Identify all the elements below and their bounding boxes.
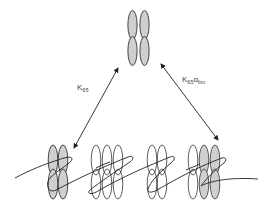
bottom-group-2	[91, 145, 123, 199]
subunit-ellipse	[140, 37, 149, 66]
top-molecule	[128, 11, 149, 66]
bottom-group-3	[147, 145, 167, 199]
label-right-tail-sub: lim	[198, 79, 205, 85]
subunit-ellipse	[91, 169, 101, 199]
diagram-canvas	[0, 0, 277, 210]
subunit-ellipse	[48, 169, 58, 199]
equilibrium-arrow-left	[74, 68, 118, 148]
bottom-group-4	[188, 145, 220, 199]
subunit-ellipse	[147, 169, 157, 199]
subunit-ellipse	[128, 37, 137, 66]
subunit-ellipse	[140, 11, 149, 40]
subunit-ellipse	[113, 169, 123, 199]
subunit-ellipse	[58, 169, 68, 199]
label-left-sub: 65	[82, 87, 88, 93]
subunit-ellipse	[199, 169, 209, 199]
subunit-ellipse	[128, 11, 137, 40]
rate-constant-label-right: K65αlim	[182, 76, 205, 86]
subunit-ellipse	[188, 169, 198, 199]
subunit-ellipse	[102, 145, 112, 175]
subunit-ellipse	[147, 145, 157, 175]
rate-constant-label-left: K65	[77, 84, 88, 94]
